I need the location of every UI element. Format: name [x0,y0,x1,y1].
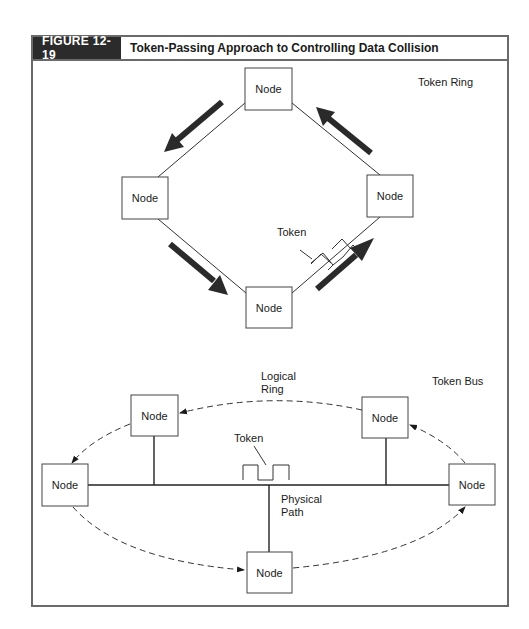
token-bus-heading: Token Bus [432,375,484,387]
ring-direction-arrows [164,102,374,295]
bus-token: Token [234,432,289,480]
ring-node-left: Node [122,177,168,219]
bus-node-upper-left: Node [131,395,178,436]
token-bus-section: Token Bus Logical Ring Physical Path Tok… [42,370,495,593]
physical-path-label-2: Path [281,506,304,518]
token-ring-section: Token Ring Token [122,68,473,328]
bus-node-upper-right: Node [362,397,408,438]
arrow-down-left-icon [164,102,222,152]
ring-node-bottom: Node [246,287,292,328]
svg-text:Node: Node [52,479,78,491]
svg-text:Node: Node [256,302,282,314]
svg-text:Node: Node [255,83,281,95]
bus-node-right: Node [449,464,495,505]
arc-left-to-bottom [73,507,244,570]
svg-text:Node: Node [377,190,403,202]
ring-token-label: Token [277,226,306,238]
svg-text:Node: Node [372,412,398,424]
arc-right-to-upper-right [410,425,465,463]
bus-node-left: Node [42,464,88,506]
arc-upper-left-to-left [72,424,130,463]
bus-token-leader-line [254,446,266,465]
token-leader-line [300,250,312,259]
bus-token-label: Token [234,432,263,444]
svg-text:Node: Node [141,410,167,422]
logical-ring-label-2: Ring [261,383,284,395]
svg-text:Node: Node [256,567,282,579]
ring-node-top: Node [245,68,292,110]
token-ring-heading: Token Ring [418,76,473,88]
network-diagram: Token Ring Token [0,0,529,629]
svg-text:Node: Node [132,192,158,204]
logical-ring-label-1: Logical [261,370,296,382]
arc-bottom-to-right [293,507,465,568]
svg-text:Node: Node [459,479,485,491]
physical-bus [88,436,449,552]
bus-node-bottom: Node [247,552,292,593]
arc-upper-right-to-upper-left [180,401,362,413]
arrow-down-right-icon [170,244,228,295]
ring-node-right: Node [367,175,413,217]
physical-path-label-1: Physical [281,493,322,505]
